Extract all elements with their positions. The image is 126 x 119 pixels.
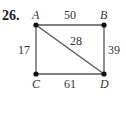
vertex-label-b: B: [100, 8, 107, 23]
vertex-a: [33, 22, 38, 27]
vertex-d: [101, 71, 106, 76]
edge-weight-ac: 17: [18, 43, 30, 58]
vertex-label-d: D: [100, 77, 109, 92]
vertex-c: [33, 71, 38, 76]
vertex-label-c: C: [32, 77, 40, 92]
edge-weight-bd: 39: [108, 43, 120, 58]
vertex-b: [101, 22, 106, 27]
edge-weight-ab: 50: [64, 8, 76, 23]
edge-weight-cd: 61: [64, 77, 76, 92]
edge-weight-ad: 28: [70, 34, 82, 49]
vertex-label-a: A: [32, 8, 39, 23]
edge-ad: [36, 25, 104, 74]
